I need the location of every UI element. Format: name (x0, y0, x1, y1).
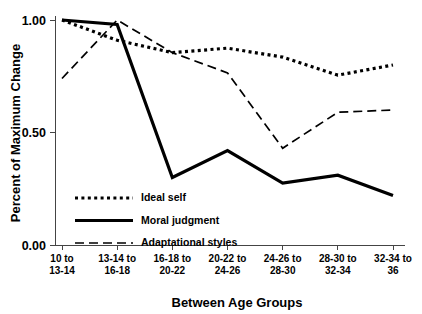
chart-legend: Ideal selfMoral judgmentAdaptational sty… (75, 191, 237, 248)
x-axis-tick-label: 13-14 to (98, 253, 136, 264)
y-axis-tick-label: 1.00 (22, 14, 46, 28)
x-axis-tick-label: 24-26 to (264, 253, 302, 264)
data-series-group (62, 20, 393, 196)
legend-label-0: Ideal self (141, 191, 186, 203)
x-axis-tick-label: 28-30 to (319, 253, 357, 264)
x-axis-tick-label: 36 (387, 265, 399, 276)
y-axis-title: Percent of Maximum Change (8, 44, 23, 222)
x-axis: 10 to13-1413-14 to16-1816-18 to20-2220-2… (49, 245, 412, 276)
x-axis-tick-label: 20-22 (160, 265, 186, 276)
x-axis-tick-label: 32-34 (325, 265, 351, 276)
x-axis-tick-label: 20-22 to (209, 253, 247, 264)
x-axis-tick-label: 28-30 (270, 265, 296, 276)
series-line-ideal-self (62, 20, 393, 75)
legend-label-1: Moral judgment (141, 214, 220, 226)
x-axis-tick-label: 16-18 to (153, 253, 191, 264)
x-axis-tick-label: 10 to (50, 253, 73, 264)
series-line-moral-judgment (62, 20, 393, 196)
y-axis-tick-label: 0.00 (22, 239, 46, 253)
y-axis: 0.000.501.00 (22, 14, 55, 253)
x-axis-title: Between Age Groups (172, 295, 303, 310)
x-axis-tick-label: 32-34 to (374, 253, 412, 264)
chart-figure: 0.000.501.00 10 to13-1413-14 to16-1816-1… (0, 0, 422, 314)
y-axis-tick-label: 0.50 (22, 126, 46, 140)
x-axis-tick-label: 16-18 (104, 265, 130, 276)
legend-label-2: Adaptational styles (141, 236, 237, 248)
x-axis-tick-label: 24-26 (215, 265, 241, 276)
line-chart: 0.000.501.00 10 to13-1413-14 to16-1816-1… (0, 0, 422, 314)
x-axis-tick-label: 13-14 (49, 265, 75, 276)
